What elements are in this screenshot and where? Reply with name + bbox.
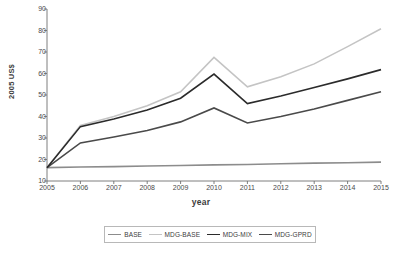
legend-swatch-line-icon — [108, 234, 121, 235]
chart-legend: BASEMDG-BASEMDG-MIXMDG-GPRD — [104, 226, 316, 243]
legend-label: BASE — [124, 231, 142, 238]
line-chart: 2005 US$ 102030405060708090 200520062007… — [0, 0, 402, 253]
x-tick-label: 2015 — [361, 184, 401, 191]
legend-item-mdg-gprd[interactable]: MDG-GPRD — [259, 231, 312, 238]
plot-area — [0, 0, 402, 253]
legend-swatch-line-icon — [259, 234, 272, 235]
legend-item-base[interactable]: BASE — [108, 231, 142, 238]
series-line-base — [47, 162, 381, 168]
legend-label: MDG-MIX — [223, 231, 253, 238]
series-line-mdg-gprd — [47, 92, 381, 168]
series-line-mdg-base — [47, 29, 381, 168]
x-axis-title: year — [0, 197, 402, 207]
legend-item-mdg-base[interactable]: MDG-BASE — [149, 231, 200, 238]
series-line-mdg-mix — [47, 70, 381, 168]
legend-swatch-line-icon — [149, 234, 162, 235]
legend-item-mdg-mix[interactable]: MDG-MIX — [207, 231, 253, 238]
legend-label: MDG-GPRD — [275, 231, 312, 238]
legend-swatch-line-icon — [207, 234, 220, 235]
legend-label: MDG-BASE — [165, 231, 200, 238]
